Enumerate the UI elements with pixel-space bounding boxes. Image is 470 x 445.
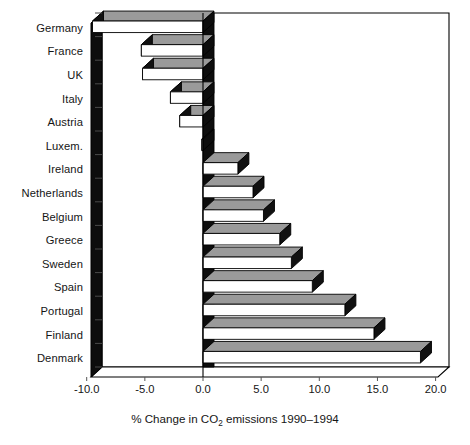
x-tick-label: 15.0 bbox=[367, 382, 389, 396]
x-axis-title: % Change in CO2 emissions 1990–1994 bbox=[0, 412, 470, 425]
bar-front-face bbox=[203, 281, 312, 293]
bar bbox=[203, 247, 302, 268]
bar bbox=[203, 176, 264, 198]
x-tick-label: -5.0 bbox=[135, 382, 154, 396]
bar bbox=[203, 223, 291, 245]
bar-top-face bbox=[203, 318, 385, 328]
x-axis-tick-labels: -10.0-5.00.05.010.015.020.0 bbox=[0, 382, 470, 398]
bar bbox=[203, 271, 323, 293]
bar-top-face bbox=[203, 200, 274, 210]
plot-area bbox=[0, 0, 470, 445]
bar-front-face bbox=[203, 163, 238, 175]
bar bbox=[203, 318, 385, 340]
bar-front-face bbox=[143, 68, 203, 80]
bar-top-face bbox=[203, 341, 431, 351]
bar-front-face bbox=[203, 210, 263, 222]
bar-front-face bbox=[203, 328, 374, 340]
x-axis-title-prefix: % Change in CO bbox=[131, 412, 218, 425]
bar-top-face bbox=[203, 294, 356, 304]
bar-top-face bbox=[93, 11, 214, 21]
x-tick-label: 20.0 bbox=[425, 382, 447, 396]
bar bbox=[93, 11, 214, 33]
x-tick-label: 0.0 bbox=[195, 382, 211, 396]
bar-front-face bbox=[141, 45, 203, 57]
plot-floor bbox=[91, 367, 449, 377]
bar bbox=[203, 200, 274, 222]
bar-top-face bbox=[203, 247, 302, 257]
bar bbox=[203, 294, 356, 316]
bar-front-face bbox=[203, 233, 280, 245]
x-tick-label: -10.0 bbox=[74, 382, 100, 396]
x-axis-title-subscript: 2 bbox=[218, 419, 223, 428]
bar-top-face bbox=[203, 223, 291, 233]
x-axis-title-suffix: emissions 1990–1994 bbox=[223, 412, 339, 425]
bar-front-face bbox=[203, 351, 420, 363]
category-axis-spine bbox=[91, 13, 102, 377]
x-tick-label: 5.0 bbox=[253, 382, 269, 396]
bar-front-face bbox=[170, 92, 203, 104]
bar-front-face bbox=[93, 21, 203, 33]
bar-front-face bbox=[180, 115, 203, 127]
bar-front-face bbox=[203, 257, 291, 269]
x-tick-label: 10.0 bbox=[308, 382, 330, 396]
bar-front-face bbox=[203, 304, 345, 316]
bar-front-face bbox=[203, 186, 253, 198]
bar-top-face bbox=[203, 271, 323, 281]
bar bbox=[203, 341, 431, 363]
bar bbox=[203, 153, 249, 175]
co2-emissions-bar-chart: GermanyFranceUKItalyAustriaLuxem.Ireland… bbox=[0, 0, 470, 445]
